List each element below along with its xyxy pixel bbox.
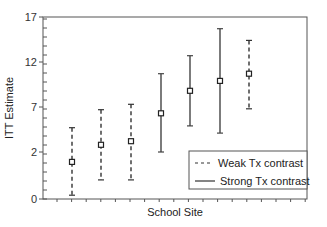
error-bar-site-4 [158,74,164,152]
y-tick-label: 12 [25,56,37,68]
point-marker [129,139,134,144]
point-marker [159,111,164,116]
y-tick-label: 2 [31,146,37,158]
point-marker [247,71,252,76]
y-tick-label: 0 [31,193,37,205]
legend-label-weak: Weak Tx contrast [218,157,303,169]
error-bar-site-2 [98,110,104,180]
y-tick-label: 7 [31,101,37,113]
error-bar-site-5 [187,56,193,126]
point-marker [99,142,104,147]
x-axis-title: School Site [147,206,203,218]
legend-label-strong: Strong Tx contrast [220,175,310,187]
y-axis-title: ITT Estimate [3,77,15,139]
point-marker [188,88,193,93]
point-marker [70,159,75,164]
legend: Weak Tx contrast Strong Tx contrast [189,151,310,189]
error-bar-site-6 [217,29,223,133]
error-bar-site-7 [246,40,252,108]
error-bar-site-3 [128,104,134,180]
error-bar-chart: 0 2 7 12 17 ITT Estimate School Site Wea… [0,0,327,227]
error-bar-site-1 [69,128,75,196]
point-marker [218,78,223,83]
y-tick-label: 17 [25,11,37,23]
